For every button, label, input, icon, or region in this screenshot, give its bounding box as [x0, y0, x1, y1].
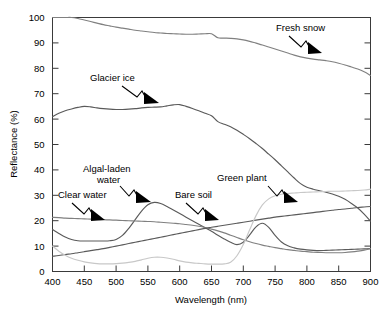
x-tick-label: 600: [172, 276, 188, 287]
x-axis-tick-labels: 400450500550600650700750800850900: [45, 276, 379, 287]
x-tick-label: 400: [45, 276, 61, 287]
arrowhead-clear-water: [91, 209, 105, 221]
curve-clear-water: [53, 217, 371, 252]
y-tick-label: 10: [34, 241, 45, 252]
x-tick-label: 750: [267, 276, 283, 287]
x-tick-label: 450: [76, 276, 92, 287]
x-tick-label: 500: [108, 276, 124, 287]
x-axis-ticks: [53, 266, 371, 272]
chart-canvas: 0102030405060708090100 40045050055060065…: [0, 0, 385, 314]
arrowhead-glacier-ice: [144, 92, 159, 104]
x-tick-label: 850: [331, 276, 347, 287]
y-tick-label: 70: [34, 88, 45, 99]
arrowhead-algal-water: [136, 191, 151, 203]
x-tick-label: 550: [140, 276, 156, 287]
y-tick-label: 20: [34, 215, 45, 226]
x-tick-label: 650: [204, 276, 220, 287]
reflectance-spectra-figure: 0102030405060708090100 40045050055060065…: [0, 0, 385, 314]
y-tick-label: 50: [34, 139, 45, 150]
y-tick-label: 60: [34, 114, 45, 125]
y-tick-label: 30: [34, 190, 45, 201]
plot-frame: [53, 18, 371, 272]
arrowhead-fresh-snow: [308, 42, 322, 54]
annotation-label-clear-water: Clear water: [58, 189, 107, 200]
x-tick-label: 700: [235, 276, 251, 287]
y-tick-label: 90: [34, 37, 45, 48]
x-axis-title: Wavelength (nm): [175, 294, 247, 305]
leader-bare-soil: [186, 203, 208, 217]
annotation-labels: Fresh snowGlacier iceAlgal-ladenwaterCle…: [58, 22, 325, 200]
leader-fresh-snow: [289, 36, 311, 50]
x-tick-label: 800: [299, 276, 315, 287]
annotation-label-water: water: [96, 174, 120, 185]
y-tick-label: 80: [34, 63, 45, 74]
curve-algal-laden-water: [53, 202, 371, 250]
y-axis-ticks: [53, 18, 371, 272]
data-curves: [53, 17, 371, 264]
annotation-label-glacier-ice: Glacier ice: [90, 72, 135, 83]
leader-glacier-ice: [122, 86, 147, 100]
y-axis-title: Reflectance (%): [8, 110, 19, 178]
annotation-label-fresh-snow: Fresh snow: [276, 22, 325, 33]
x-tick-label: 900: [363, 276, 379, 287]
annotation-label-green-plant: Green plant: [217, 172, 267, 183]
arrowhead-bare-soil: [205, 209, 219, 221]
annotation-label-bare-soil: Bare soil: [175, 189, 212, 200]
y-tick-label: 100: [29, 12, 45, 23]
annotation-label-algal-laden: Algal-laden: [83, 163, 131, 174]
y-axis-tick-labels: 0102030405060708090100: [29, 12, 45, 277]
y-tick-label: 40: [34, 164, 45, 175]
leader-clear-water: [72, 203, 94, 217]
